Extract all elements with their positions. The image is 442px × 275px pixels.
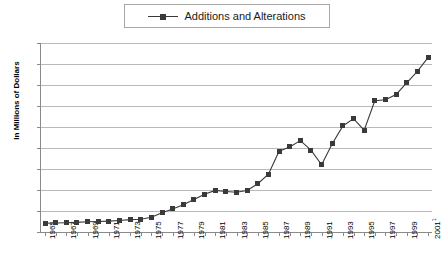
data-point-marker	[213, 188, 218, 193]
data-point-marker	[85, 219, 90, 224]
x-axis-tick-mark	[354, 232, 355, 236]
x-axis-tick-mark	[130, 232, 131, 236]
data-point-marker	[298, 138, 303, 143]
data-point-marker	[160, 210, 165, 215]
y-axis-tick-mark	[37, 232, 41, 233]
x-axis-tick-mark	[332, 232, 333, 236]
x-axis-tick-mark	[290, 232, 291, 236]
x-axis-tick-mark	[56, 232, 57, 236]
data-point-marker	[181, 202, 186, 207]
data-point-marker	[394, 92, 399, 97]
x-axis-tick-label: 20011	[431, 218, 442, 239]
x-axis-tick-mark	[183, 232, 184, 236]
x-axis-tick-mark	[343, 232, 344, 236]
x-axis-tick-mark	[417, 232, 418, 236]
x-axis-tick-mark	[385, 232, 386, 236]
legend-label: Additions and Alterations	[184, 10, 305, 22]
data-point-marker	[170, 206, 175, 211]
data-point-marker	[404, 80, 409, 85]
x-axis-tick-mark	[258, 232, 259, 236]
legend-square-marker-icon	[160, 14, 166, 20]
x-axis-tick-mark	[194, 232, 195, 236]
x-axis-tick-mark	[279, 232, 280, 236]
x-axis-tick-mark	[45, 232, 46, 236]
x-axis-tick-mark	[375, 232, 376, 236]
data-point-marker	[128, 217, 133, 222]
x-axis-tick-mark	[109, 232, 110, 236]
x-axis-tick-mark	[88, 232, 89, 236]
x-axis-tick-mark	[66, 232, 67, 236]
x-axis-tick-mark	[322, 232, 323, 236]
x-axis-tick-mark	[119, 232, 120, 236]
data-point-marker	[234, 190, 239, 195]
data-point-marker	[330, 141, 335, 146]
x-axis-tick-mark	[364, 232, 365, 236]
data-point-marker	[191, 197, 196, 202]
data-point-marker	[96, 219, 101, 224]
data-point-marker	[277, 149, 282, 154]
data-point-marker	[64, 220, 69, 225]
x-axis-tick-mark	[407, 232, 408, 236]
chart-legend: Additions and Alterations	[124, 4, 330, 28]
x-axis-tick-mark	[98, 232, 99, 236]
data-point-marker	[426, 55, 431, 60]
x-axis-tick-mark	[141, 232, 142, 236]
data-point-marker	[362, 128, 367, 133]
x-axis-tick-mark	[396, 232, 397, 236]
x-axis-tick-mark	[173, 232, 174, 236]
x-axis-tick-mark	[205, 232, 206, 236]
data-point-marker	[53, 220, 58, 225]
data-point-marker	[117, 218, 122, 223]
data-point-marker	[245, 188, 250, 193]
data-point-marker	[319, 162, 324, 167]
x-axis-tick-mark	[311, 232, 312, 236]
x-axis-tick-mark	[428, 232, 429, 236]
plot-area: $90,000$80,000$70,000$60,000$50,000$40,0…	[40, 43, 432, 233]
data-point-marker	[202, 192, 207, 197]
data-point-marker	[106, 219, 111, 224]
data-point-marker	[415, 69, 420, 74]
x-axis-tick-mark	[162, 232, 163, 236]
data-point-marker	[74, 220, 79, 225]
data-point-marker	[43, 221, 48, 226]
data-point-marker	[255, 181, 260, 186]
data-point-marker	[308, 148, 313, 153]
legend-line-swatch	[148, 16, 178, 17]
x-axis-tick-mark	[77, 232, 78, 236]
data-point-marker	[351, 116, 356, 121]
x-axis-tick-mark	[151, 232, 152, 236]
x-axis-tick-mark	[300, 232, 301, 236]
data-point-marker	[372, 98, 377, 103]
data-point-marker	[266, 172, 271, 177]
series-line-additions-and-alterations	[41, 43, 432, 232]
x-axis-tick-mark	[268, 232, 269, 236]
x-axis-tick-mark	[247, 232, 248, 236]
data-point-marker	[149, 215, 154, 220]
data-point-marker	[287, 144, 292, 149]
y-axis-title: In Millions of Dollars	[12, 41, 21, 161]
x-axis-tick-mark	[226, 232, 227, 236]
x-axis-tick-mark	[215, 232, 216, 236]
data-point-marker	[340, 123, 345, 128]
legend-entry-additions-and-alterations: Additions and Alterations	[148, 10, 305, 22]
x-axis-tick-mark	[237, 232, 238, 236]
data-point-marker	[138, 217, 143, 222]
data-point-marker	[223, 189, 228, 194]
data-point-marker	[383, 97, 388, 102]
